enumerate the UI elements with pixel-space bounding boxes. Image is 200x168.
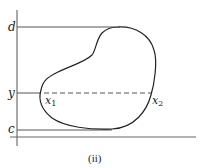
figure-caption: (ii) <box>88 152 102 165</box>
region-boundary <box>40 27 156 129</box>
label-x2: x2 <box>152 94 163 108</box>
label-x1-sub: 1 <box>51 99 56 108</box>
label-c: c <box>8 122 15 136</box>
region-diagram: d y c x1 x2 (ii) <box>0 0 200 168</box>
label-x1: x1 <box>45 94 56 108</box>
label-y: y <box>7 86 15 100</box>
label-d: d <box>8 20 16 34</box>
label-x2-sub: 2 <box>158 99 163 108</box>
